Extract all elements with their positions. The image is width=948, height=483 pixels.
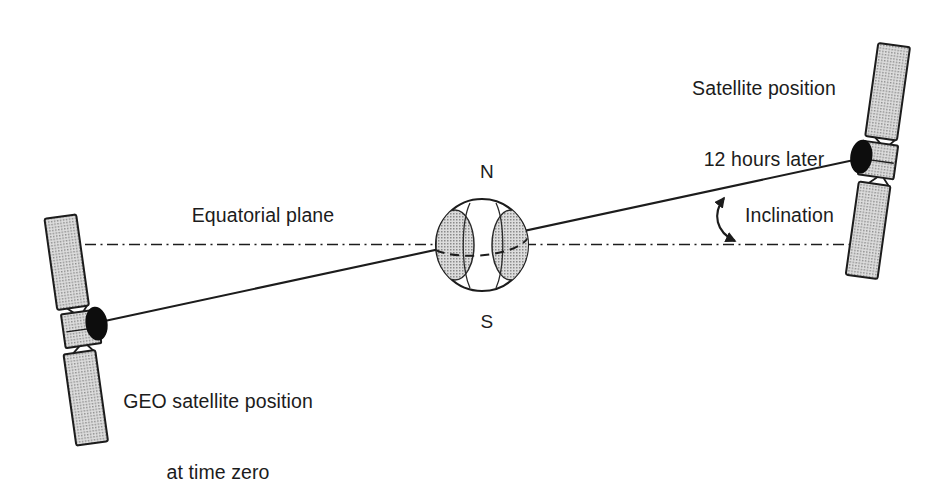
label-pole-north: N (462, 160, 512, 183)
earth-globe (436, 199, 530, 291)
label-geo-time-zero: GEO satellite position at time zero (118, 342, 318, 483)
solar-panel-lower (64, 350, 108, 446)
label-pole-south: S (462, 310, 512, 333)
satellite-left (44, 213, 114, 445)
inclination-arc (717, 198, 735, 241)
solar-panel-upper (44, 214, 88, 310)
solar-panel-lower (846, 182, 891, 280)
label-satellite-12-hours-line1: Satellite position (674, 77, 854, 101)
label-geo-time-zero-line2: at time zero (118, 461, 318, 483)
solar-panel-upper (865, 43, 910, 141)
label-equatorial-plane: Equatorial plane (148, 204, 378, 228)
label-inclination: Inclination (745, 204, 895, 228)
globe-landmass-left (436, 210, 474, 280)
label-satellite-12-hours-line2: 12 hours later (674, 148, 854, 172)
label-satellite-12-hours: Satellite position 12 hours later (674, 29, 854, 195)
label-geo-time-zero-line1: GEO satellite position (118, 390, 318, 414)
globe-landmass-right (492, 210, 530, 280)
